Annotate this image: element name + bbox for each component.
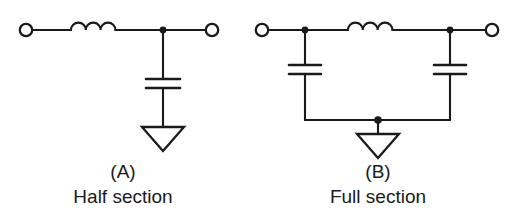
circuit-figure: (A) Half section — [0, 0, 520, 217]
circuit-b-caption-name: Full section — [330, 186, 426, 207]
circuit-a-left-terminal — [20, 24, 32, 36]
circuit-a-right-terminal — [206, 24, 218, 36]
circuit-b-left-terminal — [256, 24, 268, 36]
circuit-b-caption-id: (B) — [365, 161, 390, 182]
circuit-b-right-terminal — [486, 24, 498, 36]
circuit-a-caption-id: (A) — [110, 161, 135, 182]
circuit-a-caption-name: Half section — [73, 186, 172, 207]
